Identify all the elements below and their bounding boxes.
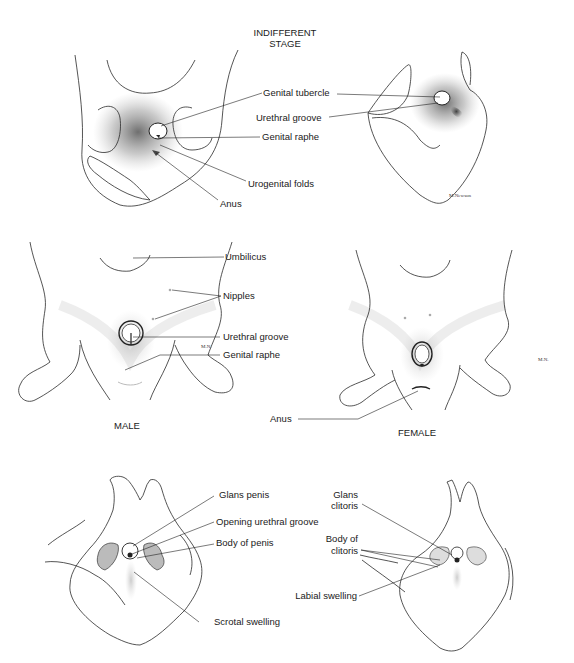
title-line-1: INDIFFERENT bbox=[240, 27, 330, 38]
indifferent-front-drawing bbox=[75, 50, 238, 206]
label-genital-raphe-male: Genital raphe bbox=[223, 349, 280, 360]
female-mid-drawing bbox=[340, 250, 512, 410]
label-urogenital-folds: Urogenital folds bbox=[248, 178, 314, 189]
label-glans-penis: Glans penis bbox=[219, 489, 269, 500]
caption-female: FEMALE bbox=[398, 427, 436, 438]
caption-male: MALE bbox=[114, 420, 140, 431]
label-body-of-clitoris-line1: Body of bbox=[310, 533, 358, 544]
label-urethral-groove-indifferent: Urethral groove bbox=[256, 112, 321, 123]
label-body-of-penis: Body of penis bbox=[216, 537, 274, 548]
label-glans-clitoris-line2: clitoris bbox=[310, 500, 358, 511]
label-opening-urethral-groove: Opening urethral groove bbox=[216, 516, 318, 527]
label-genital-tubercle: Genital tubercle bbox=[263, 87, 330, 98]
male-late-drawing bbox=[45, 476, 202, 645]
initials-male: M.N. bbox=[201, 344, 212, 349]
anatomy-figure: INDIFFERENT STAGE Genital tubercle Genit… bbox=[0, 0, 574, 663]
label-scrotal-swelling: Scrotal swelling bbox=[214, 616, 280, 627]
label-genital-raphe-indifferent: Genital raphe bbox=[262, 131, 319, 142]
label-anus-indifferent: Anus bbox=[220, 198, 242, 209]
label-anus-female: Anus bbox=[270, 413, 292, 424]
male-mid-drawing bbox=[19, 242, 233, 401]
label-labial-swelling: Labial swelling bbox=[280, 590, 357, 601]
label-glans-clitoris-line1: Glans bbox=[310, 489, 358, 500]
indifferent-side-drawing bbox=[368, 52, 487, 203]
illustrator-signature: M.Newson bbox=[449, 193, 471, 198]
initials-female: M.N. bbox=[538, 357, 549, 362]
label-urethral-groove-male: Urethral groove bbox=[223, 331, 288, 342]
label-nipples: Nipples bbox=[223, 290, 255, 301]
female-late-drawing bbox=[360, 480, 513, 651]
title-line-2: STAGE bbox=[240, 38, 330, 49]
label-umbilicus: Umbilicus bbox=[225, 251, 266, 262]
label-body-of-clitoris-line2: clitoris bbox=[310, 545, 358, 556]
